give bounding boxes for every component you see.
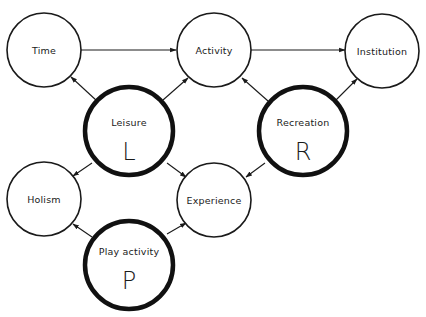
node-time: Time bbox=[7, 13, 81, 87]
node-play-activity: Play activity P bbox=[85, 221, 173, 309]
edge-play-to-experience bbox=[167, 223, 186, 234]
node-letter: P bbox=[122, 267, 136, 295]
edge-recreation-to-activity bbox=[242, 78, 268, 101]
node-label: Institution bbox=[357, 46, 407, 57]
node-label: Holism bbox=[27, 194, 61, 205]
edge-recreation-to-institution bbox=[336, 79, 357, 100]
node-institution: Institution bbox=[345, 14, 419, 88]
node-recreation: Recreation R bbox=[259, 87, 347, 175]
edge-leisure-to-activity bbox=[163, 78, 188, 100]
node-activity: Activity bbox=[177, 13, 251, 87]
node-label: Time bbox=[31, 45, 56, 56]
node-label: Recreation bbox=[277, 117, 330, 128]
node-label: Activity bbox=[195, 45, 232, 56]
node-experience: Experience bbox=[177, 163, 251, 237]
edge-play-to-holism bbox=[73, 224, 92, 237]
node-letter: R bbox=[295, 138, 312, 166]
node-letter: L bbox=[122, 138, 135, 166]
edge-leisure-to-experience bbox=[167, 163, 186, 177]
node-label: Experience bbox=[187, 195, 242, 206]
edge-recreation-to-experience bbox=[246, 163, 265, 177]
node-holism: Holism bbox=[7, 162, 81, 236]
leisure-concept-diagram: Time Activity Institution Leisure L Recr… bbox=[0, 0, 426, 317]
node-label: Play activity bbox=[99, 246, 160, 257]
node-leisure: Leisure L bbox=[85, 87, 173, 175]
node-label: Leisure bbox=[111, 117, 147, 128]
edge-leisure-to-holism bbox=[73, 163, 92, 176]
edge-leisure-to-time bbox=[71, 77, 97, 101]
